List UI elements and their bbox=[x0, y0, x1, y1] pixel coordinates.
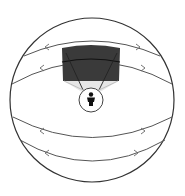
arrow-right-icon bbox=[141, 65, 145, 71]
viewing-sphere-diagram bbox=[0, 0, 185, 196]
arc-lower-1 bbox=[13, 117, 172, 138]
diagram-canvas bbox=[0, 0, 185, 196]
arc-lower-2 bbox=[20, 140, 165, 161]
